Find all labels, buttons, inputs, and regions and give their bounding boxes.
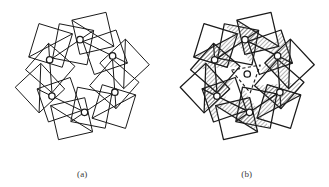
site-circle: [46, 57, 52, 63]
figure-panel-a: (a): [0, 0, 165, 187]
figure-container: (a) (b): [0, 0, 329, 187]
panel-b-drawing: [165, 0, 329, 158]
site-circle: [246, 109, 252, 115]
figure-panel-b: (b): [165, 0, 329, 187]
site-circle: [276, 89, 282, 95]
panel-a-caption: (a): [0, 169, 165, 179]
site-circle: [49, 93, 55, 99]
panel-b-shapes: [180, 12, 314, 139]
site-circle: [241, 36, 247, 42]
panel-a-shapes: [15, 12, 149, 139]
site-circle: [81, 109, 87, 115]
site-circle: [112, 89, 118, 95]
site-circle: [109, 53, 115, 59]
site-circle: [211, 57, 217, 63]
site-circle-center: [244, 71, 250, 77]
panel-b-caption: (b): [165, 169, 329, 179]
panel-a-drawing: [0, 0, 165, 158]
site-circle: [274, 53, 280, 59]
site-circle: [77, 36, 83, 42]
site-circle: [213, 93, 219, 99]
